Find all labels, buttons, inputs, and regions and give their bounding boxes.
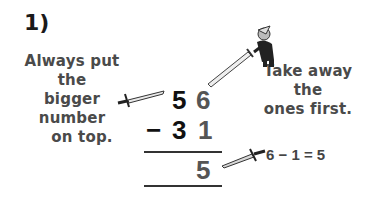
bottom-number-ones: 1 [198,117,212,143]
result-ones: 5 [196,157,210,183]
bottom-number-tens: 3 [172,117,186,143]
sword-icon [220,146,266,170]
answer-line [144,185,222,187]
minus-sign: − [146,117,161,143]
problem-number: 1) [24,10,49,35]
ones-equation: 6 − 1 = 5 [266,146,325,163]
top-number-tens: 5 [172,87,186,113]
tip-left-line-1: Always put the [8,52,136,90]
tip-left-line-3: on top. [8,128,136,147]
top-number-ones: 6 [196,87,210,113]
sword-icon [116,88,166,110]
tip-right-line-2: ones first. [250,100,366,119]
subtraction-line [144,151,222,153]
knight-with-sword-icon [200,22,300,92]
